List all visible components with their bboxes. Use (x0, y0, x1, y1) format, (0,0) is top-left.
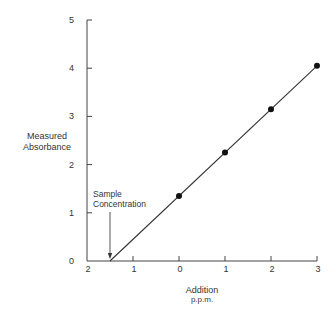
axis-titles: Measured Absorbance Addition p.p.m. Samp… (23, 131, 218, 304)
x-tick-label: 1 (131, 264, 136, 274)
y-tick-label: 1 (69, 208, 74, 218)
y-tick-label: 2 (69, 160, 74, 170)
data-point (268, 106, 274, 112)
x-axis-title-line2: p.p.m. (191, 295, 213, 304)
y-tick-label: 4 (69, 63, 74, 73)
x-tick-label: 3 (315, 264, 320, 274)
chart: 012345210123 Measured Absorbance Additio… (0, 0, 336, 314)
x-tick-label: 2 (85, 264, 90, 274)
y-axis-title-line1: Measured (27, 131, 67, 141)
y-axis-title-line2: Absorbance (23, 142, 71, 152)
ticks: 012345210123 (69, 15, 321, 274)
x-axis-title-line1: Addition (186, 285, 219, 295)
annotation-line1: Sample (93, 189, 122, 199)
fit-line-group (108, 66, 317, 261)
data-point (314, 63, 320, 69)
fit-line (110, 66, 317, 261)
x-tick-label: 0 (177, 264, 182, 274)
x-tick-label: 1 (223, 264, 228, 274)
y-tick-label: 3 (69, 111, 74, 121)
data-point (176, 193, 182, 199)
x-tick-label: 2 (269, 264, 274, 274)
data-point (222, 150, 228, 156)
y-tick-label: 0 (69, 256, 74, 266)
y-tick-label: 5 (69, 15, 74, 25)
annotation-arrow-head (108, 253, 112, 259)
axes (87, 20, 317, 261)
annotation-line2: Concentration (93, 199, 146, 209)
